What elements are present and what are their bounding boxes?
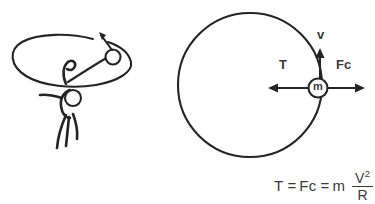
velocity-label: v: [317, 28, 324, 41]
tension-arrow-head: [268, 84, 278, 93]
equation-numerator-base: V: [355, 170, 365, 186]
equation-middle: Fc: [299, 177, 316, 194]
ball: [106, 50, 121, 65]
figure-canvas: v T Fc m T = Fc = m V2 R: [0, 0, 375, 204]
panel-person-swinging-ball: [13, 32, 132, 148]
equation-numerator: V2: [352, 169, 373, 186]
stick-figure-hand: [67, 61, 75, 70]
panel-force-diagram: [178, 13, 365, 157]
stick-figure-leg-right: [73, 114, 77, 139]
centrifugal-label: Fc: [336, 58, 351, 71]
orbit-circle: [178, 13, 322, 157]
equation-equals-1: =: [287, 177, 296, 194]
equation-equals-2: =: [320, 177, 329, 194]
equation-fraction: V2 R: [352, 169, 373, 202]
stick-figure-leg-middle: [66, 117, 69, 146]
velocity-arrow-head: [316, 48, 325, 58]
equation-lhs: T: [274, 177, 283, 194]
equation-mass: m: [332, 177, 345, 194]
stick-figure-leg-left: [57, 115, 66, 148]
mass-label: m: [311, 81, 325, 92]
equation-denominator: R: [354, 187, 370, 202]
centrifugal-arrow-head: [355, 84, 365, 93]
stick-figure-left-arm: [40, 95, 62, 98]
tension-label: T: [279, 58, 287, 71]
stick-figure-arm: [64, 62, 68, 84]
equation-numerator-exponent: 2: [365, 168, 371, 179]
equation: T = Fc = m V2 R: [274, 169, 373, 202]
